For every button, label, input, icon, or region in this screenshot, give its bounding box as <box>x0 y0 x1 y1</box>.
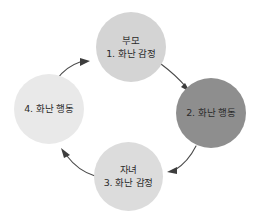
node-child-behavior-line-1: 4. 화난 행동 <box>24 103 74 115</box>
anger-cycle-diagram: 부모 1. 화난 감정 2. 화난 행동 자녀 3. 화난 감정 4. 화난 행… <box>0 0 258 218</box>
node-child-anger-feeling: 자녀 3. 화난 감정 <box>94 142 163 211</box>
node-parent-behavior-line-1: 2. 화난 행동 <box>186 107 236 119</box>
node-parent-anger-feeling: 부모 1. 화난 감정 <box>96 12 166 82</box>
node-child-line-1: 자녀 <box>120 164 138 176</box>
node-parent-anger-behavior: 2. 화난 행동 <box>176 78 246 148</box>
arrow-child-to-child-behavior <box>61 148 95 176</box>
node-parent-line-1: 부모 <box>122 35 140 47</box>
node-child-line-2: 3. 화난 감정 <box>104 177 154 189</box>
node-child-anger-behavior: 4. 화난 행동 <box>14 74 84 144</box>
arrow-parent-behavior-to-child <box>167 146 196 174</box>
node-parent-line-2: 1. 화난 감정 <box>106 48 156 60</box>
